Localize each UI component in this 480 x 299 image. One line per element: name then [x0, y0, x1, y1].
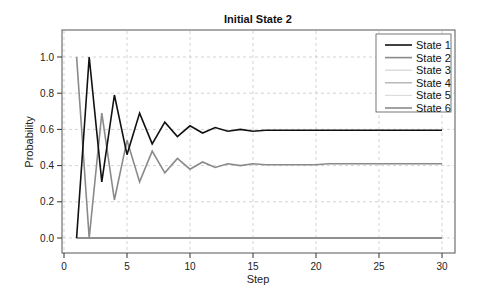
- x-axis-label: Step: [247, 273, 270, 285]
- x-tick-label: 30: [436, 261, 448, 272]
- y-tick-label: 0.8: [40, 88, 54, 99]
- legend-label: State 4: [416, 77, 451, 89]
- chart-title: Initial State 2: [224, 13, 292, 25]
- x-tick-label: 20: [310, 261, 322, 272]
- legend-label: State 2: [416, 52, 451, 64]
- x-tick-label: 10: [184, 261, 196, 272]
- y-tick-label: 0.4: [40, 160, 54, 171]
- legend-label: State 1: [416, 39, 451, 51]
- y-tick-label: 0.2: [40, 196, 54, 207]
- x-tick-label: 15: [247, 261, 259, 272]
- x-tick-label: 25: [373, 261, 385, 272]
- line-chart: Initial State 2 051015202530 0.00.20.40.…: [0, 0, 480, 299]
- y-tick-label: 0.6: [40, 124, 54, 135]
- legend-label: State 3: [416, 64, 451, 76]
- y-axis: 0.00.20.40.60.81.0: [40, 52, 62, 244]
- x-tick-label: 5: [124, 261, 130, 272]
- legend-label: State 5: [416, 89, 451, 101]
- x-axis: 051015202530: [61, 253, 448, 272]
- x-tick-label: 0: [61, 261, 67, 272]
- legend-label: State 6: [416, 102, 451, 114]
- y-tick-label: 0.0: [40, 233, 54, 244]
- y-axis-label: Probability: [23, 116, 35, 168]
- y-tick-label: 1.0: [40, 52, 54, 63]
- legend: State 1State 2State 3State 4State 5State…: [376, 34, 451, 114]
